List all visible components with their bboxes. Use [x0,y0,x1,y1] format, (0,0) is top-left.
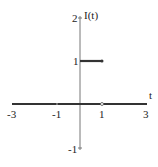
y-tick-label-1: 1 [73,55,79,67]
x-tick-label-neg3: -3 [7,108,17,120]
y-axis-label: I(t) [84,9,98,22]
y-tick-label-neg1: -1 [68,143,77,155]
x-tick-label-1: 1 [99,108,105,120]
x-axis-label: t [149,89,152,101]
x-tick-label-3: 3 [143,108,149,120]
x-tick-neg1-dot [56,103,58,105]
step-end-dot [101,60,104,63]
x-tick-1-dot [101,103,104,106]
x-tick-label-neg1: -1 [52,108,61,120]
step-function-chart: I(t) 2 1 -1 t -3 -1 1 3 [0,0,158,167]
y-tick-label-2: 2 [72,12,78,24]
